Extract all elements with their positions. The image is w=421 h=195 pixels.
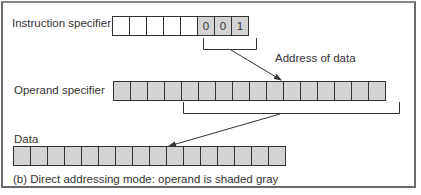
address-arrow — [231, 50, 281, 80]
operand-bracket — [184, 102, 400, 114]
data-arrow — [169, 114, 280, 146]
instruction-bracket — [204, 38, 257, 50]
connector-overlay — [0, 0, 421, 195]
